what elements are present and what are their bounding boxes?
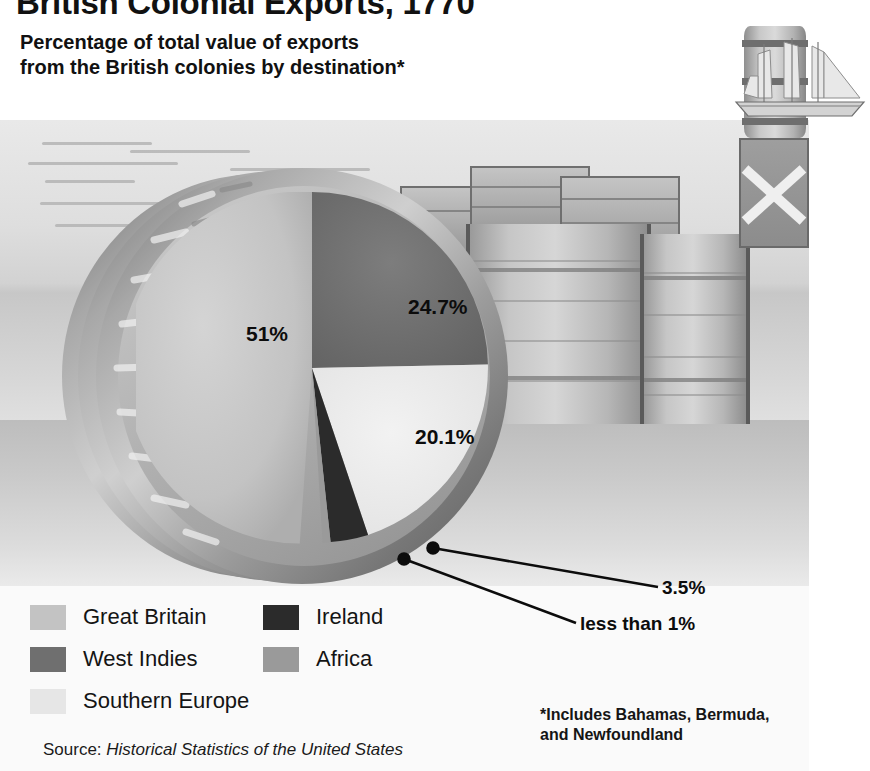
- legend-swatch-great-britain: [30, 605, 66, 630]
- page-subtitle: Percentage of total value of exports fro…: [20, 30, 405, 80]
- footnote: *Includes Bahamas, Bermuda, and Newfound…: [540, 705, 769, 745]
- legend: Great Britain West Indies Southern Europ…: [0, 604, 520, 724]
- legend-label-west-indies: West Indies: [83, 646, 198, 672]
- legend-item-ireland[interactable]: Ireland: [263, 604, 383, 630]
- legend-item-great-britain[interactable]: Great Britain: [30, 604, 207, 630]
- marked-crate: [739, 138, 809, 248]
- cask: [640, 234, 750, 424]
- sea-line: [28, 162, 178, 165]
- legend-label-ireland: Ireland: [316, 604, 383, 630]
- sea-line: [42, 142, 152, 145]
- source-prefix: Source:: [43, 740, 106, 759]
- sea-line: [130, 150, 250, 153]
- legend-swatch-southern-europe: [30, 689, 66, 714]
- legend-swatch-ireland: [263, 605, 299, 630]
- slice-label-great-britain: 51%: [246, 322, 288, 346]
- pie-chart: [136, 192, 488, 544]
- legend-label-great-britain: Great Britain: [83, 604, 207, 630]
- legend-swatch-west-indies: [30, 647, 66, 672]
- source-work-title: Historical Statistics of the United Stat…: [106, 740, 403, 759]
- pie-slice-west-indies: [312, 192, 488, 368]
- legend-item-southern-europe[interactable]: Southern Europe: [30, 688, 249, 714]
- slice-label-southern-europe: 20.1%: [415, 425, 475, 449]
- page-title: British Colonial Exports, 1770: [16, 0, 475, 22]
- callout-label-africa: less than 1%: [580, 613, 695, 635]
- source-line: Source: Historical Statistics of the Uni…: [43, 740, 403, 760]
- legend-label-southern-europe: Southern Europe: [83, 688, 249, 714]
- header: British Colonial Exports, 1770 Percentag…: [0, 0, 809, 120]
- legend-swatch-africa: [263, 647, 299, 672]
- legend-item-west-indies[interactable]: West Indies: [30, 646, 198, 672]
- legend-label-africa: Africa: [316, 646, 372, 672]
- legend-item-africa[interactable]: Africa: [263, 646, 372, 672]
- callout-label-ireland: 3.5%: [662, 577, 705, 599]
- slice-label-west-indies: 24.7%: [408, 295, 468, 319]
